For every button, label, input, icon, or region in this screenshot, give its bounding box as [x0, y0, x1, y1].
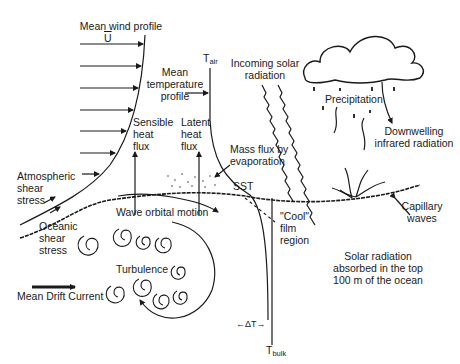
turbulence-label: Turbulence: [116, 263, 168, 275]
t-bulk-label: Tbulk: [266, 344, 286, 360]
t-air-label: Tair: [203, 52, 218, 68]
downwelling-ir-label: Downwellinginfrared radiation: [370, 125, 458, 149]
evaporation-dots: [167, 173, 215, 187]
precipitation-label: Precipitation: [325, 93, 383, 105]
cloud: [304, 36, 424, 83]
mass-flux-label: Mass flux byevaporation: [230, 143, 288, 167]
atmospheric-shear-label: Atmosphericshearstress: [17, 170, 75, 206]
sensible-heat-label: Sensibleheatflux: [133, 116, 173, 152]
oceanic-shear-label: Oceanicshearstress: [39, 220, 78, 256]
air-sea-interaction-diagram: Mean wind profile U Tair Meantemperature…: [0, 0, 460, 364]
mean-temperature-label: Meantemperatureprofile: [145, 66, 205, 102]
latent-heat-label: Latentheatflux: [181, 116, 210, 152]
downwelling-ir: [382, 82, 392, 123]
wave-orbital-label: Wave orbital motion: [116, 206, 208, 218]
mean-drift-label: Mean Drift Current: [17, 290, 103, 302]
mean-wind-profile-label: Mean wind profile: [66, 20, 176, 32]
capillary-waves-label: Capillarywaves: [392, 200, 452, 224]
sst-label: SST: [233, 180, 253, 192]
solar-absorbed-label: Solar radiationabsorbed in the top100 m …: [328, 250, 428, 286]
incoming-solar-label: Incoming solarradiation: [225, 57, 305, 81]
u-bar-label: U: [104, 32, 112, 44]
delta-t-label: ←ΔT→: [236, 318, 266, 330]
sea-surface: [20, 185, 420, 238]
cool-film-label: "Cool"filmregion: [280, 210, 309, 246]
